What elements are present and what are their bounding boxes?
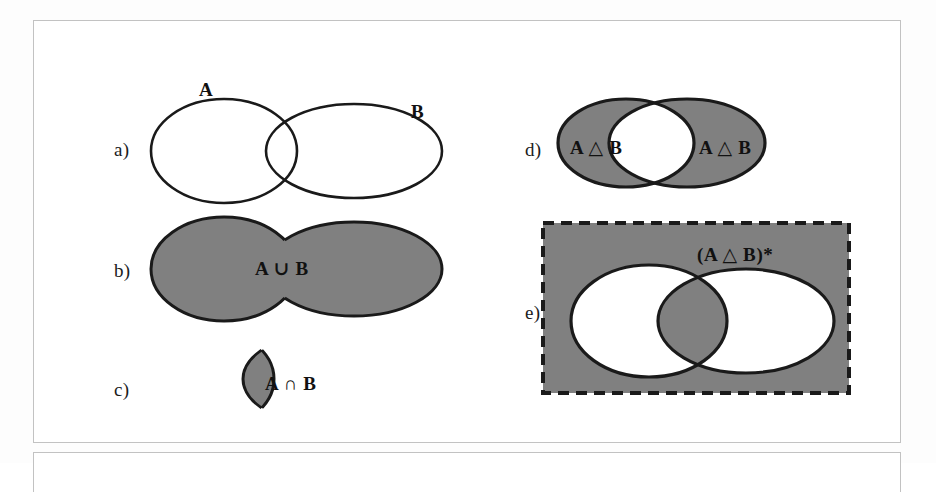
ellipse-a-outline bbox=[151, 99, 297, 203]
set-label-symmetric-difference-right: A △ B bbox=[699, 136, 751, 159]
set-label-a: A bbox=[199, 79, 213, 101]
set-label-union: A ∪ B bbox=[255, 257, 309, 280]
secondary-frame bbox=[33, 452, 901, 492]
panel-e-symmetric-difference-complement bbox=[539, 203, 859, 403]
panel-label-a: a) bbox=[114, 139, 129, 161]
set-label-symmetric-difference-complement: (A △ B)* bbox=[697, 243, 773, 266]
set-label-symmetric-difference-left: A △ B bbox=[570, 136, 622, 159]
set-label-intersection: A ∩ B bbox=[265, 373, 317, 395]
panel-d-symmetric-difference bbox=[519, 83, 819, 208]
set-label-b: B bbox=[411, 101, 424, 123]
figure-frame: a) A B b) A ∪ B c) bbox=[33, 20, 901, 443]
panel-label-b: b) bbox=[114, 260, 130, 282]
panel-label-e: e) bbox=[525, 302, 540, 324]
panel-label-c: c) bbox=[114, 379, 129, 401]
